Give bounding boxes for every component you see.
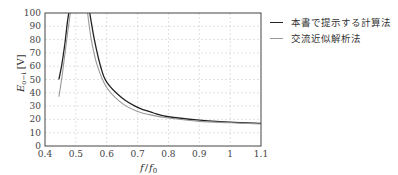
- y-tick-label: 10: [30, 128, 42, 138]
- legend-item-proposed: 本書で提示する計算法: [270, 14, 391, 30]
- data-curves: [59, 13, 261, 124]
- y-tick-label: 80: [30, 35, 42, 45]
- curve-ac-approximation: [88, 13, 261, 124]
- y-tick-label: 50: [30, 75, 42, 85]
- y-tick-label: 20: [30, 114, 42, 124]
- y-tick-label: 100: [24, 8, 41, 18]
- curve-proposed-method: [59, 13, 69, 80]
- x-tick-label: 1: [227, 149, 233, 159]
- legend-swatch-gray: [270, 38, 283, 39]
- curve-ac-approximation: [59, 13, 70, 97]
- legend: 本書で提示する計算法 交流近似解析法: [270, 14, 391, 46]
- x-tick-label: 0.7: [130, 149, 145, 159]
- x-tick-label: 0.4: [38, 149, 53, 159]
- y-tick-label: 70: [30, 48, 42, 58]
- y-tick-label: 30: [30, 101, 42, 111]
- curve-proposed-method: [90, 13, 261, 123]
- x-tick-label: 1.1: [254, 149, 268, 159]
- x-tick-label: 0.5: [69, 149, 84, 159]
- y-tick-label: 40: [30, 88, 42, 98]
- x-tick-label: 0.8: [161, 149, 176, 159]
- y-tick-label: 60: [30, 61, 42, 71]
- legend-swatch-black: [270, 22, 283, 23]
- x-tick-label: 0.9: [192, 149, 207, 159]
- y-tick-label: 90: [30, 21, 42, 31]
- legend-item-ac-approx: 交流近似解析法: [270, 30, 391, 46]
- legend-label: 本書で提示する計算法: [291, 15, 391, 29]
- x-tick-labels: 0.40.50.60.70.80.911.1: [38, 149, 268, 159]
- legend-label: 交流近似解析法: [291, 31, 361, 45]
- x-tick-label: 0.6: [100, 149, 115, 159]
- x-axis-label: f/f0: [139, 162, 157, 175]
- grid-lines: [45, 13, 261, 146]
- y-axis-label: Eo−i[V]: [15, 54, 28, 93]
